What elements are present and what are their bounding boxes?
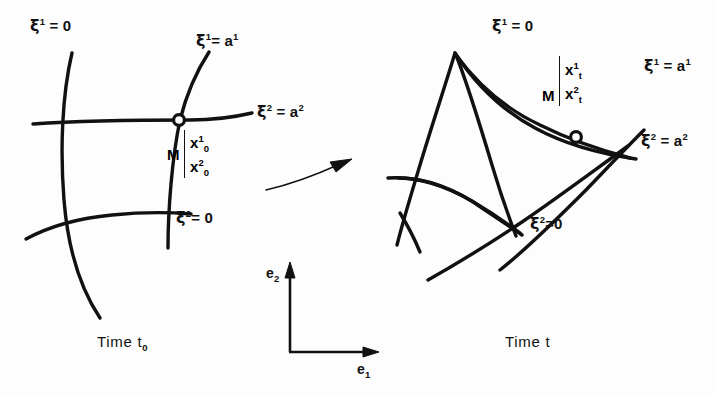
right-coord-1-sub: t — [579, 70, 582, 81]
right-label-xi1-zero-sup: 1 — [502, 16, 507, 27]
right-label-xi1-a1-eqsup: 1 — [685, 56, 690, 67]
right-label-xi2-a2-eq: = a — [661, 132, 683, 149]
left-coord-2-sub: 0 — [204, 167, 209, 178]
left-panel-caption: Time t0 — [97, 334, 148, 349]
left-curve-xi2-zero — [26, 213, 191, 239]
left-curve-xi1-zero — [62, 53, 100, 318]
basis-label-e2-base: e — [266, 265, 274, 281]
left-label-xi1-zero: ξ1 = 0 — [30, 18, 71, 34]
left-curve-xi2-a2 — [33, 113, 252, 124]
left-label-xi1-zero-symbol: ξ — [30, 16, 40, 35]
basis-label-e1-base: e — [357, 361, 365, 377]
left-label-xi2-a2-symbol: ξ — [257, 102, 267, 121]
right-curve-xi2-zero — [398, 178, 522, 235]
left-label-xi1-zero-eq: = 0 — [50, 17, 72, 34]
right-coord-rows: x1t x2t — [565, 61, 582, 102]
left-coord-row-1: x10 — [190, 134, 209, 151]
right-grid-xi1-zero — [397, 53, 455, 245]
right-grid-xi1-a1 — [428, 146, 628, 280]
right-label-xi2-a2-symbol: ξ — [641, 131, 651, 150]
left-point-marker-M — [174, 115, 185, 126]
right-coord-divider — [559, 56, 561, 106]
transformation-arrow — [266, 159, 352, 190]
left-coord-rows: x10 x20 — [190, 134, 209, 175]
left-label-xi2-zero: ξ2= 0 — [176, 210, 213, 226]
left-panel-caption-text: Time t — [97, 333, 142, 350]
basis-label-e2: e2 — [266, 266, 279, 280]
left-label-xi2-a2-eqsup: 2 — [298, 102, 303, 113]
right-point-coordinates: M x1t x2t — [542, 56, 582, 106]
right-point-label-M: M — [542, 87, 555, 104]
right-panel-grid — [388, 53, 636, 280]
right-label-xi1-a1-eq: = a — [664, 57, 686, 74]
left-point-coordinates: M x10 x20 — [167, 130, 209, 178]
right-label-xi1-a1-sup: 1 — [654, 56, 659, 67]
right-coord-row-1: x1t — [565, 61, 582, 78]
right-panel-caption-text: Time t — [505, 333, 550, 350]
left-label-xi1-a1-symbol: ξ — [196, 31, 206, 50]
figure-canvas: ξ1 = 0 ξ1= a1 ξ2 = a2 ξ2= 0 M x10 x20 Ti… — [0, 0, 714, 395]
left-label-xi2-zero-eq: = 0 — [191, 209, 213, 226]
right-panel-caption: Time t — [505, 334, 550, 349]
left-point-label-M: M — [167, 146, 180, 163]
basis-label-e2-sub: 2 — [274, 273, 279, 284]
right-label-xi1-zero-symbol: ξ — [492, 16, 502, 35]
right-label-xi2-a2: ξ2 = a2 — [641, 133, 688, 149]
basis-label-e1-sub: 1 — [365, 369, 370, 380]
right-label-xi2-zero: ξ2=0 — [530, 216, 563, 232]
left-label-xi2-a2: ξ2 = a2 — [257, 104, 304, 120]
left-label-xi1-a1-eq: = a — [211, 32, 233, 49]
left-label-xi2-a2-eq: = a — [277, 103, 299, 120]
left-coord-divider — [184, 130, 186, 178]
right-label-xi2-a2-sup: 2 — [651, 131, 656, 142]
left-label-xi1-zero-sup: 1 — [40, 16, 45, 27]
left-label-xi2-zero-symbol: ξ — [176, 208, 186, 227]
left-label-xi1-a1-eqsup: 1 — [233, 31, 238, 42]
right-coord-2-sub: t — [579, 94, 582, 105]
left-coord-1-sub: 0 — [204, 143, 209, 154]
right-label-xi2-zero-eq: =0 — [545, 215, 563, 232]
right-label-xi1-zero-eq: = 0 — [512, 17, 534, 34]
left-panel-caption-sub: 0 — [142, 342, 148, 353]
left-label-xi1-a1: ξ1= a1 — [196, 33, 239, 49]
right-coord-row-2: x2t — [565, 85, 582, 102]
right-label-xi1-zero: ξ1 = 0 — [492, 18, 533, 34]
right-label-xi1-a1: ξ1 = a1 — [644, 58, 691, 74]
right-label-xi1-a1-symbol: ξ — [644, 56, 654, 75]
left-label-xi2-a2-sup: 2 — [267, 102, 272, 113]
basis-label-e1: e1 — [357, 362, 370, 376]
left-coord-row-2: x20 — [190, 158, 209, 175]
right-label-xi2-a2-eqsup: 2 — [682, 131, 687, 142]
right-point-marker-M — [571, 132, 582, 143]
basis-vectors — [285, 262, 379, 357]
right-label-xi2-zero-symbol: ξ — [530, 214, 540, 233]
